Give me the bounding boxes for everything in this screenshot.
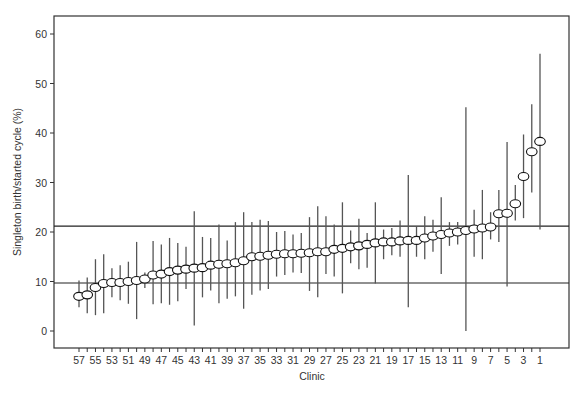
data-point [510, 200, 521, 208]
x-tick-label: 13 [435, 354, 447, 366]
x-tick-label: 29 [304, 354, 316, 366]
x-axis: 5755535149474543413937353331292725232119… [73, 348, 543, 366]
x-tick-label: 25 [337, 354, 349, 366]
x-tick-label: 47 [155, 354, 167, 366]
x-tick-label: 51 [123, 354, 135, 366]
x-tick-label: 35 [254, 354, 266, 366]
x-tick-label: 45 [172, 354, 184, 366]
error-bars [79, 54, 540, 331]
x-tick-label: 15 [419, 354, 431, 366]
x-tick-label: 1 [537, 354, 543, 366]
x-tick-label: 9 [471, 354, 477, 366]
y-tick-label: 0 [41, 325, 47, 337]
y-axis: 0102030405060 [35, 28, 54, 337]
x-tick-label: 31 [287, 354, 299, 366]
plot-border [54, 16, 569, 348]
x-tick-label: 3 [521, 354, 527, 366]
y-tick-label: 30 [35, 177, 47, 189]
y-tick-label: 60 [35, 28, 47, 40]
y-tick-label: 10 [35, 276, 47, 288]
x-tick-label: 33 [271, 354, 283, 366]
data-point [535, 137, 546, 145]
x-tick-label: 11 [452, 354, 463, 366]
x-axis-title: Clinic [299, 370, 325, 382]
x-tick-label: 19 [386, 354, 398, 366]
y-tick-label: 50 [35, 78, 47, 90]
caterpillar-chart: 0102030405060 57555351494745434139373533… [0, 0, 586, 400]
x-tick-label: 7 [488, 354, 494, 366]
x-tick-label: 53 [106, 354, 118, 366]
data-point [526, 148, 537, 156]
x-tick-label: 57 [73, 354, 85, 366]
data-point [502, 209, 513, 217]
x-tick-label: 23 [353, 354, 365, 366]
data-point [82, 291, 93, 299]
x-tick-label: 17 [402, 354, 414, 366]
x-tick-label: 43 [188, 354, 200, 366]
x-tick-label: 37 [238, 354, 250, 366]
x-tick-label: 21 [370, 354, 382, 366]
x-tick-label: 5 [504, 354, 510, 366]
y-axis-title: Singleton birth/started cycle (%) [11, 108, 23, 256]
x-tick-label: 55 [90, 354, 102, 366]
data-point [485, 223, 496, 231]
x-tick-label: 27 [320, 354, 332, 366]
plot-frame [54, 16, 569, 348]
y-tick-label: 20 [35, 226, 47, 238]
data-point [518, 173, 529, 181]
y-tick-label: 40 [35, 127, 47, 139]
x-tick-label: 49 [139, 354, 151, 366]
x-tick-label: 39 [221, 354, 233, 366]
x-tick-label: 41 [205, 354, 217, 366]
